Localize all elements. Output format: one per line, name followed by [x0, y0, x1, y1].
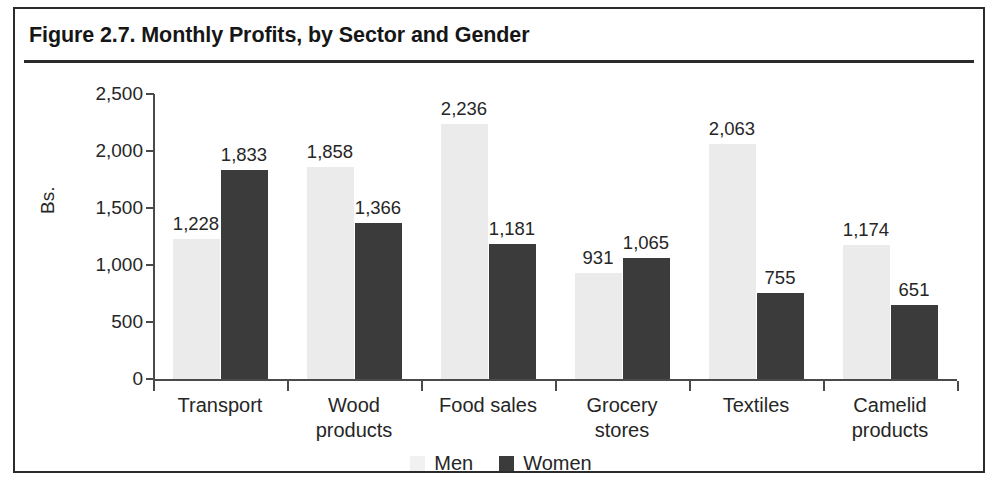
bar-men-grocery-stores[interactable]	[575, 273, 622, 379]
x-axis-category-label: Camelidproducts	[823, 393, 957, 443]
legend-entry-men: Men	[410, 452, 473, 475]
x-axis-category-line: Wood	[287, 393, 421, 418]
bar-women-camelid-products[interactable]	[891, 305, 938, 379]
legend-label-men: Men	[434, 452, 473, 475]
bar-men-textiles[interactable]	[709, 144, 756, 379]
bar-value-label: 1,065	[591, 232, 701, 254]
x-axis-category-line: products	[823, 418, 957, 443]
chart-plot-area: Bs. 05001,0001,5002,0002,500 1,2281,8331…	[15, 9, 987, 475]
bar-value-label: 651	[859, 279, 969, 301]
x-axis-category-label: Transport	[153, 393, 287, 418]
x-axis-tick-mark	[689, 381, 691, 391]
bar-column[interactable]: 1,833	[221, 92, 268, 379]
x-axis-tick-mark	[957, 381, 959, 391]
x-axis-category-label: Woodproducts	[287, 393, 421, 443]
bar-column[interactable]: 755	[757, 92, 804, 379]
bar-men-transport[interactable]	[173, 239, 220, 379]
x-axis-category-line: Food sales	[421, 393, 555, 418]
x-axis-tick-mark	[555, 381, 557, 391]
chart-legend: Men Women	[15, 452, 987, 475]
x-axis-tick-mark	[287, 381, 289, 391]
x-axis-category-line: Camelid	[823, 393, 957, 418]
x-axis-tick-mark	[421, 381, 423, 391]
bars-layer: 1,2281,8331,8581,3662,2361,1819311,0652,…	[15, 9, 987, 379]
bar-column[interactable]: 651	[891, 92, 938, 379]
bar-value-label: 755	[725, 267, 835, 289]
bar-women-grocery-stores[interactable]	[623, 258, 670, 379]
legend-swatch-women-icon	[499, 456, 514, 471]
legend-label-women: Women	[523, 452, 592, 475]
bar-value-label: 1,366	[323, 197, 433, 219]
bar-column[interactable]: 1,181	[489, 92, 536, 379]
bar-column[interactable]: 1,174	[843, 92, 890, 379]
bar-column[interactable]: 2,063	[709, 92, 756, 379]
bar-women-food-sales[interactable]	[489, 244, 536, 379]
bar-women-transport[interactable]	[221, 170, 268, 379]
x-axis-tick-mark	[153, 381, 155, 391]
x-axis-category-line: Transport	[153, 393, 287, 418]
bar-women-wood-products[interactable]	[355, 223, 402, 379]
legend-swatch-men-icon	[410, 456, 425, 471]
x-axis-category-label: Textiles	[689, 393, 823, 418]
bar-value-label: 1,181	[457, 218, 567, 240]
x-axis-category-label: Grocerystores	[555, 393, 689, 443]
x-axis-category-line: products	[287, 418, 421, 443]
figure-container: Figure 2.7. Monthly Profits, by Sector a…	[13, 7, 985, 473]
x-axis-category-label: Food sales	[421, 393, 555, 418]
bar-men-food-sales[interactable]	[441, 124, 488, 379]
bar-column[interactable]: 1,065	[623, 92, 670, 379]
x-axis-category-line: Textiles	[689, 393, 823, 418]
legend-entry-women: Women	[499, 452, 592, 475]
x-axis-category-line: stores	[555, 418, 689, 443]
bar-column[interactable]: 1,366	[355, 92, 402, 379]
bar-column[interactable]: 1,858	[307, 92, 354, 379]
bar-column[interactable]: 1,228	[173, 92, 220, 379]
x-axis-category-line: Grocery	[555, 393, 689, 418]
x-axis-tick-mark	[823, 381, 825, 391]
bar-men-camelid-products[interactable]	[843, 245, 890, 379]
bar-women-textiles[interactable]	[757, 293, 804, 379]
